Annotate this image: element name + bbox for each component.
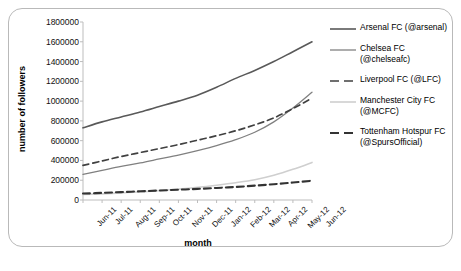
legend-label: Arsenal FC (@arsenal): [360, 22, 447, 33]
x-tick-label: Feb-12: [248, 205, 272, 229]
x-tick-label: Jul-11: [113, 205, 134, 226]
x-axis-title: month: [118, 238, 278, 248]
chart-legend: Arsenal FC (@arsenal)Chelsea FC (@chelse…: [330, 22, 452, 157]
legend-line-swatch-icon: [330, 76, 356, 86]
legend-label: Liverpool FC (@LFC): [360, 74, 441, 85]
x-tick-label: Nov-11: [191, 205, 215, 229]
legend-item[interactable]: Manchester City FC (@MCFC): [330, 95, 452, 117]
x-tick-label: Aug-11: [134, 205, 158, 229]
legend-item[interactable]: Arsenal FC (@arsenal): [330, 22, 452, 34]
legend-label: Chelsea FC (@chelseafc): [360, 43, 452, 65]
legend-item[interactable]: Chelsea FC (@chelseafc): [330, 43, 452, 65]
legend-item[interactable]: Liverpool FC (@LFC): [330, 74, 452, 86]
legend-line-swatch-icon: [330, 128, 356, 138]
line-chart: 0200000400000600000800000100000012000001…: [0, 0, 461, 271]
legend-line-swatch-icon: [330, 24, 356, 34]
legend-item[interactable]: Tottenham Hotspur FC (@SpursOfficial): [330, 126, 452, 148]
x-tick-label: Dec-11: [210, 205, 234, 229]
legend-label: Manchester City FC (@MCFC): [360, 95, 452, 117]
y-axis-title: number of followers: [17, 61, 27, 157]
x-tick-label: Sep-11: [153, 205, 177, 229]
legend-line-swatch-icon: [330, 45, 356, 55]
legend-line-swatch-icon: [330, 97, 356, 107]
legend-label: Tottenham Hotspur FC (@SpursOfficial): [360, 126, 452, 148]
